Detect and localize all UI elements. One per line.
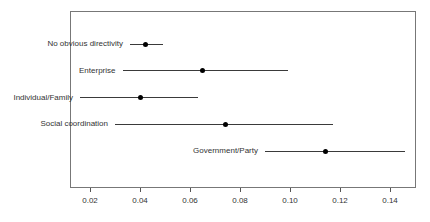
axis-tick — [190, 188, 191, 192]
axis-tick — [90, 188, 91, 192]
axis-tick-label: 0.04 — [125, 196, 155, 206]
axis-tick-label: 0.02 — [75, 196, 105, 206]
data-point — [223, 122, 228, 127]
ci-line — [265, 151, 405, 152]
axis-tick-label: 0.10 — [275, 196, 305, 206]
axis-tick-label: 0.08 — [225, 196, 255, 206]
axis-tick-label: 0.12 — [325, 196, 355, 206]
data-point — [138, 95, 143, 100]
category-label: No obvious directivity — [47, 39, 123, 49]
axis-tick — [140, 188, 141, 192]
data-point — [143, 42, 148, 47]
axis-tick-label: 0.14 — [375, 196, 405, 206]
axis-tick — [290, 188, 291, 192]
category-label: Individual/Family — [13, 93, 73, 103]
axis-tick — [240, 188, 241, 192]
category-label: Government/Party — [193, 146, 258, 156]
ci-line — [123, 70, 288, 71]
plot-box — [70, 11, 416, 188]
category-label: Social coordination — [40, 119, 108, 129]
axis-tick — [340, 188, 341, 192]
axis-tick — [390, 188, 391, 192]
category-label: Enterprise — [79, 66, 115, 76]
forest-plot-figure: No obvious directivityEnterpriseIndividu… — [0, 0, 430, 222]
axis-tick-label: 0.06 — [175, 196, 205, 206]
data-point — [323, 149, 328, 154]
